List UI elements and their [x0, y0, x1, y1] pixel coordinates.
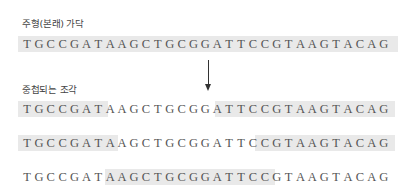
nucleotide: C [177, 102, 187, 117]
nucleotide: A [307, 170, 317, 185]
nucleotide: C [141, 37, 151, 52]
nucleotide: A [81, 136, 91, 151]
nucleotide: C [355, 136, 365, 151]
nucleotide: A [295, 102, 305, 117]
nucleotide: T [331, 136, 341, 151]
nucleotide: C [58, 170, 68, 185]
nucleotide: T [22, 170, 32, 185]
nucleotide: G [272, 102, 282, 117]
arrow-head-icon [205, 84, 211, 91]
nucleotide: C [141, 136, 151, 151]
nucleotide: G [70, 170, 80, 185]
nucleotide: A [117, 136, 127, 151]
nucleotide: G [200, 102, 210, 117]
nucleotide: C [177, 170, 187, 185]
nucleotide: A [343, 170, 353, 185]
nucleotide: G [188, 102, 198, 117]
nucleotide: A [343, 102, 353, 117]
nucleotide: T [236, 37, 246, 52]
nucleotide: C [141, 102, 151, 117]
nucleotide: G [272, 136, 282, 151]
nucleotide: A [295, 136, 305, 151]
nucleotide: A [212, 170, 222, 185]
nucleotide: A [295, 170, 305, 185]
nucleotide: G [188, 136, 198, 151]
nucleotide: A [367, 136, 377, 151]
nucleotide: C [260, 102, 270, 117]
nucleotide: A [307, 37, 317, 52]
nucleotide: T [284, 37, 294, 52]
nucleotide: T [236, 170, 246, 185]
nucleotide: T [331, 170, 341, 185]
nucleotide: C [177, 37, 187, 52]
nucleotide: A [212, 136, 222, 151]
nucleotide: T [22, 102, 32, 117]
nucleotide: T [236, 136, 246, 151]
nucleotide: G [34, 37, 44, 52]
nucleotide: T [153, 170, 163, 185]
nucleotide: G [70, 102, 80, 117]
nucleotide: C [58, 37, 68, 52]
nucleotide: C [248, 170, 258, 185]
overlap-fragment-3: TGCCGATAAGCTGCGGATTCCGTAAGTACAG [18, 169, 393, 185]
nucleotide: T [236, 102, 246, 117]
nucleotide: G [34, 102, 44, 117]
nucleotide: A [367, 102, 377, 117]
nucleotide: T [224, 102, 234, 117]
nucleotide: G [379, 37, 389, 52]
nucleotide: C [248, 136, 258, 151]
nucleotide: G [165, 136, 175, 151]
nucleotide: T [224, 37, 234, 52]
nucleotide: G [272, 170, 282, 185]
nucleotide: A [212, 37, 222, 52]
nucleotide: G [165, 170, 175, 185]
nucleotide: C [46, 37, 56, 52]
overlap-section-label: 중첩되는 조각 [22, 82, 77, 96]
down-arrow-icon [208, 60, 209, 86]
nucleotide: A [307, 102, 317, 117]
nucleotide: C [46, 136, 56, 151]
nucleotide: T [93, 136, 103, 151]
nucleotide: T [284, 170, 294, 185]
nucleotide: G [200, 136, 210, 151]
nucleotide: C [355, 102, 365, 117]
nucleotide: T [22, 37, 32, 52]
nucleotide: C [141, 170, 151, 185]
nucleotide: G [129, 37, 139, 52]
nucleotide: C [260, 37, 270, 52]
nucleotide: G [379, 102, 389, 117]
nucleotide: C [260, 170, 270, 185]
nucleotide: C [58, 102, 68, 117]
nucleotide: T [153, 102, 163, 117]
nucleotide: A [117, 102, 127, 117]
original-strand-label: 주형(본래) 가닥 [22, 16, 84, 30]
nucleotide: G [129, 102, 139, 117]
nucleotide: G [129, 170, 139, 185]
nucleotide: A [81, 37, 91, 52]
nucleotide: G [70, 136, 80, 151]
nucleotide: A [81, 102, 91, 117]
nucleotide: G [34, 170, 44, 185]
nucleotide: C [248, 102, 258, 117]
nucleotide: A [81, 170, 91, 185]
nucleotide: A [105, 170, 115, 185]
nucleotide: A [105, 102, 115, 117]
nucleotide: G [188, 170, 198, 185]
nucleotide: T [331, 102, 341, 117]
nucleotide: C [248, 37, 258, 52]
nucleotide: T [153, 136, 163, 151]
nucleotide: C [46, 170, 56, 185]
nucleotide: A [212, 102, 222, 117]
nucleotide: G [319, 37, 329, 52]
nucleotide: G [379, 170, 389, 185]
nucleotide: G [200, 37, 210, 52]
nucleotide: C [58, 136, 68, 151]
nucleotide: C [46, 102, 56, 117]
nucleotide: G [319, 102, 329, 117]
nucleotide: G [34, 136, 44, 151]
nucleotide: T [284, 136, 294, 151]
nucleotide: G [188, 37, 198, 52]
original-strand-sequence: TGCCGATAAGCTGCGGATTCCGTAAGTACAG [18, 36, 393, 52]
nucleotide: G [200, 170, 210, 185]
overlap-fragment-2: TGCCGATAAGCTGCGGATTCCGTAAGTACAG [18, 135, 393, 151]
